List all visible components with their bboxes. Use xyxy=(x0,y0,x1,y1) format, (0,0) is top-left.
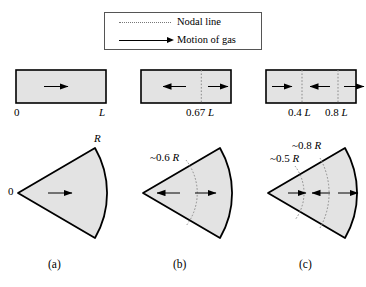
cone-nodal-label: ~0.5 R xyxy=(270,153,299,164)
panel-caption-c: (c) xyxy=(299,258,312,270)
tube-origin-label: 0 xyxy=(14,107,20,118)
tube-nodal-label: 0.4 L xyxy=(288,107,311,118)
cone-panel-a xyxy=(18,148,107,238)
cone-apex-label: 0 xyxy=(8,186,14,197)
cone-radius-label: R xyxy=(94,133,101,144)
panel-caption-b: (b) xyxy=(173,258,186,270)
tube-nodal-label: 0.8 L xyxy=(325,107,348,118)
cone-nodal-label: ~0.8 R xyxy=(292,140,321,151)
tube-nodal-label: 0.67 L xyxy=(186,107,214,118)
tube-panel-c xyxy=(266,70,364,103)
tube-panel-b xyxy=(141,70,231,103)
cone-nodal-label: ~0.6 R xyxy=(150,152,179,163)
panel-caption-a: (a) xyxy=(48,258,61,270)
tube-panel-a xyxy=(16,70,106,103)
tube-length-label: L xyxy=(99,107,105,118)
